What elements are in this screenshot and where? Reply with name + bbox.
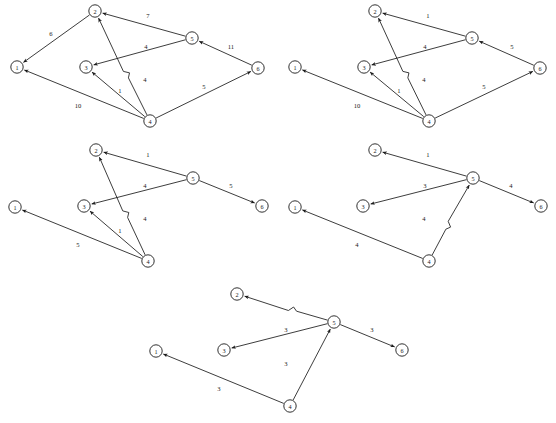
edge-5-to-2 bbox=[245, 296, 328, 320]
edge-6-to-5 bbox=[199, 41, 252, 65]
graph-node-6: 6 bbox=[252, 62, 264, 74]
node-label: 1 bbox=[293, 64, 296, 71]
edge-weight-label: 4 bbox=[143, 76, 147, 83]
edge-weight-label: 3 bbox=[284, 360, 288, 367]
node-label: 4 bbox=[427, 258, 430, 265]
graph-node-5: 5 bbox=[186, 32, 198, 44]
edge-5-to-6 bbox=[340, 325, 394, 347]
edge-weight-label: 1 bbox=[426, 151, 429, 158]
node-label: 5 bbox=[191, 175, 194, 182]
edge-5-to-2 bbox=[383, 13, 466, 36]
edge-weight-label: 3 bbox=[284, 326, 288, 333]
edge-weight-label: 10 bbox=[354, 102, 361, 109]
node-label: 1 bbox=[154, 348, 157, 355]
edge-4-to-6 bbox=[435, 71, 533, 118]
node-label: 6 bbox=[400, 347, 403, 354]
edge-weight-label: 11 bbox=[228, 43, 234, 50]
node-label: 3 bbox=[361, 203, 364, 210]
graph-node-1: 1 bbox=[289, 61, 301, 73]
graph-node-2: 2 bbox=[369, 144, 381, 156]
edge-4-to-1 bbox=[302, 70, 422, 118]
edge-5-to-3 bbox=[94, 40, 186, 65]
node-label: 1 bbox=[293, 204, 296, 211]
edge-weight-label: 10 bbox=[75, 102, 82, 109]
graph-node-4: 4 bbox=[284, 400, 296, 412]
edge-weight-label: 5 bbox=[229, 182, 233, 189]
graph-node-3: 3 bbox=[357, 200, 369, 212]
edge-weight-label: 7 bbox=[146, 12, 150, 19]
node-label: 4 bbox=[146, 258, 149, 265]
graph-node-5: 5 bbox=[328, 316, 340, 328]
node-label: 6 bbox=[539, 203, 542, 210]
edge-weight-label: 5 bbox=[76, 241, 80, 248]
graph-node-4: 4 bbox=[423, 255, 435, 267]
graph-node-2: 2 bbox=[231, 288, 243, 300]
graph-node-6: 6 bbox=[535, 200, 547, 212]
node-label: 4 bbox=[427, 118, 430, 125]
edge-5-to-6 bbox=[479, 181, 533, 203]
edge-4-to-5 bbox=[293, 329, 330, 400]
edge-weight-label: 4 bbox=[143, 182, 147, 189]
node-label: 4 bbox=[288, 403, 291, 410]
edge-5-to-3 bbox=[371, 180, 467, 204]
graph-node-3: 3 bbox=[218, 344, 230, 356]
node-label: 5 bbox=[190, 35, 193, 42]
diagram-canvas: 123456123456123456123456123456 674411011… bbox=[0, 0, 556, 423]
edge-weight-label: 3 bbox=[423, 182, 427, 189]
edge-weight-label: 1 bbox=[146, 151, 149, 158]
node-label: 5 bbox=[470, 35, 473, 42]
edge-weight-label: 5 bbox=[202, 83, 206, 90]
edge-weight-label: 4 bbox=[144, 43, 148, 50]
edge-4-to-2 bbox=[99, 18, 147, 115]
edge-weight-label: 1 bbox=[118, 87, 121, 94]
node-label: 2 bbox=[235, 291, 238, 298]
node-label: 5 bbox=[471, 175, 474, 182]
nodes-layer: 123456123456123456123456123456 bbox=[9, 5, 547, 412]
edge-weight-label: 1 bbox=[426, 12, 429, 19]
edge-weight-label: 3 bbox=[370, 326, 374, 333]
graph-node-6: 6 bbox=[396, 344, 408, 356]
node-label: 4 bbox=[148, 118, 151, 125]
edge-4-to-2 bbox=[99, 157, 145, 255]
edge-4-to-1 bbox=[302, 210, 422, 258]
edge-weight-label: 5 bbox=[510, 43, 514, 50]
edge-6-to-5 bbox=[479, 41, 533, 65]
graph-node-5: 5 bbox=[467, 172, 479, 184]
edge-weight-label: 4 bbox=[509, 182, 513, 189]
graph-node-3: 3 bbox=[358, 61, 370, 73]
graph-node-1: 1 bbox=[11, 61, 23, 73]
graph-node-5: 5 bbox=[187, 172, 199, 184]
graph-node-1: 1 bbox=[9, 201, 21, 213]
node-label: 6 bbox=[256, 65, 259, 72]
edge-5-to-2 bbox=[104, 152, 187, 176]
edge-weight-label: 1 bbox=[118, 227, 121, 234]
graph-node-6: 6 bbox=[256, 200, 268, 212]
graph-node-2: 2 bbox=[89, 5, 101, 17]
graph-node-6: 6 bbox=[534, 62, 546, 74]
graph-node-5: 5 bbox=[466, 32, 478, 44]
graph-figure: 123456123456123456123456123456 674411011… bbox=[0, 0, 556, 423]
edge-weight-label: 4 bbox=[422, 215, 426, 222]
graph-node-3: 3 bbox=[78, 200, 90, 212]
graph-node-4: 4 bbox=[144, 115, 156, 127]
node-label: 2 bbox=[94, 147, 97, 154]
graph-node-3: 3 bbox=[80, 61, 92, 73]
edge-4-to-5 bbox=[432, 185, 469, 255]
node-label: 3 bbox=[82, 203, 85, 210]
node-label: 1 bbox=[13, 204, 16, 211]
edges-layer bbox=[22, 13, 533, 403]
node-label: 6 bbox=[260, 203, 263, 210]
edge-weight-label: 5 bbox=[482, 83, 486, 90]
edge-4-to-1 bbox=[22, 210, 141, 258]
graph-node-1: 1 bbox=[289, 201, 301, 213]
edge-4-to-6 bbox=[156, 72, 251, 118]
edge-weight-label: 1 bbox=[397, 87, 400, 94]
edge-weight-label: 4 bbox=[423, 43, 427, 50]
edge-5-to-3 bbox=[92, 180, 187, 204]
node-label: 2 bbox=[373, 8, 376, 15]
edge-weight-label: 6 bbox=[49, 30, 53, 37]
edge-5-to-2 bbox=[383, 152, 467, 176]
edge-5-to-2 bbox=[103, 13, 186, 36]
node-label: 1 bbox=[15, 64, 18, 71]
edge-4-to-1 bbox=[163, 354, 283, 403]
